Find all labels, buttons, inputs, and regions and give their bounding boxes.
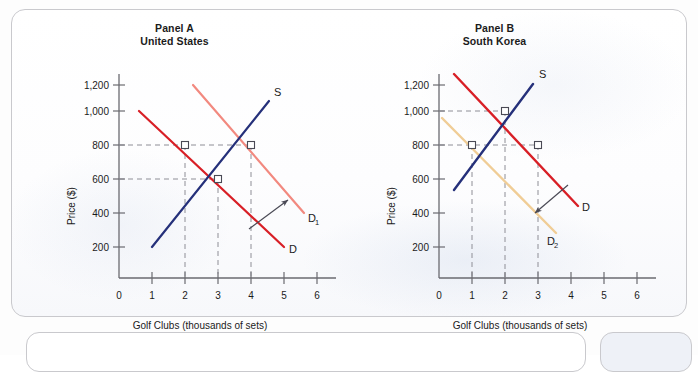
panel-a-xtick-1: 1 <box>149 290 155 301</box>
panel-b-ytick-200: 200 <box>412 242 429 253</box>
panel-b-demand-d-curve <box>454 74 578 206</box>
next-figure-frame-right <box>600 332 692 372</box>
panel-b-xtick-0: 0 <box>436 290 442 301</box>
panel-b-demand-d-label: D <box>582 201 590 213</box>
panel-b-xtick-4: 4 <box>568 290 574 301</box>
panel-a-ytick-1000: 1,000 <box>84 106 109 117</box>
panel-b-ytick-1200: 1,200 <box>404 80 429 91</box>
panel-b: Panel B South Korea Price ($) Golf Clubs… <box>320 0 669 330</box>
panel-a-ytick-600: 600 <box>92 174 109 185</box>
panel-b-xtick-6: 6 <box>634 290 640 301</box>
panel-a-plot: 200 400 600 800 1,000 1,200 0 1 2 3 4 <box>0 0 349 320</box>
panel-b-ytick-400: 400 <box>412 208 429 219</box>
panel-b-xtick-2: 2 <box>502 290 508 301</box>
panel-a-xtick-2: 2 <box>182 290 188 301</box>
panel-a-ytick-200: 200 <box>92 242 109 253</box>
panel-b-xtick-3: 3 <box>535 290 541 301</box>
panel-b-demand-d2-curve <box>442 118 556 233</box>
panel-b-demand-d2-subscript: 2 <box>554 241 558 250</box>
panel-a-xtick-4: 4 <box>248 290 254 301</box>
panel-a-xtick-5: 5 <box>281 290 287 301</box>
next-figure-frame <box>26 332 586 372</box>
panel-b-xtick-5: 5 <box>601 290 607 301</box>
panel-b-supply-label: S <box>539 68 546 80</box>
panel-a-ytick-1200: 1,200 <box>84 80 109 91</box>
panel-a: Panel A United States Price ($) Golf Clu… <box>0 0 349 330</box>
panel-a-x-axis-label: Golf Clubs (thousands of sets) <box>75 320 325 331</box>
panel-b-shift-arrow-icon <box>535 185 568 213</box>
panel-b-x-axis-label: Golf Clubs (thousands of sets) <box>395 320 645 331</box>
panel-b-xtick-1: 1 <box>469 290 475 301</box>
panel-a-xtick-0: 0 <box>116 290 122 301</box>
panel-a-demand-d1-subscript: 1 <box>315 218 319 227</box>
panel-b-ytick-1000: 1,000 <box>404 106 429 117</box>
panel-a-supply-label: S <box>274 86 281 98</box>
panel-a-xtick-3: 3 <box>215 290 221 301</box>
panel-a-ytick-400: 400 <box>92 208 109 219</box>
panel-a-demand-d-curve <box>139 111 284 247</box>
panel-b-x-ticks: 0 1 2 3 4 5 6 <box>436 272 640 301</box>
panel-b-ytick-600: 600 <box>412 174 429 185</box>
panel-a-ytick-800: 800 <box>92 140 109 151</box>
panel-a-demand-d-label: D <box>289 243 297 255</box>
panel-a-guide-lines <box>119 145 251 278</box>
panel-b-supply-curve <box>454 84 533 190</box>
panel-b-plot: 200 400 600 800 1,000 1,200 0 1 2 3 4 <box>320 0 669 320</box>
panel-a-shift-arrow-icon <box>249 200 288 229</box>
panel-b-ytick-800: 800 <box>412 140 429 151</box>
panel-a-x-ticks: 0 1 2 3 4 5 6 <box>116 272 320 301</box>
panel-b-guide-lines <box>439 111 538 278</box>
